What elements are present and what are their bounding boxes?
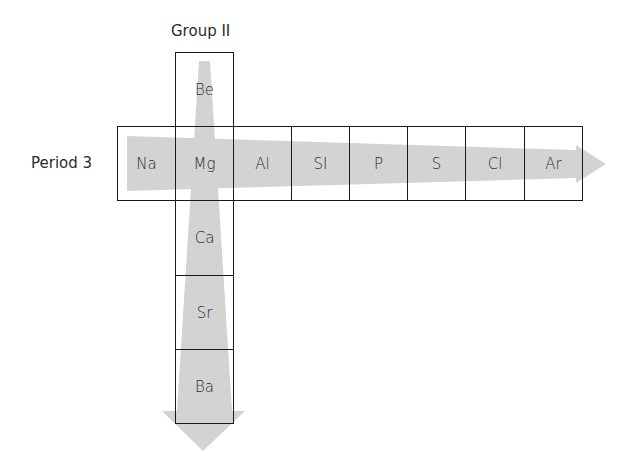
trend-arrows [0,0,626,464]
element-cell-cl: Cl [465,126,525,201]
element-cell-al: Al [233,126,292,201]
element-cell-be: Be [175,52,234,127]
element-cell-na: Na [117,126,176,201]
element-cell-p: P [349,126,408,201]
element-cell-sr: Sr [175,275,234,350]
element-cell-si: SI [291,126,350,201]
element-cell-ca: Ca [175,200,234,276]
period-label: Period 3 [31,154,92,172]
element-cell-s: S [407,126,466,201]
element-cell-mg: Mg [175,126,234,201]
element-cell-ba: Ba [175,349,234,424]
element-cell-ar: Ar [524,126,583,201]
group-label: Group II [171,22,230,40]
